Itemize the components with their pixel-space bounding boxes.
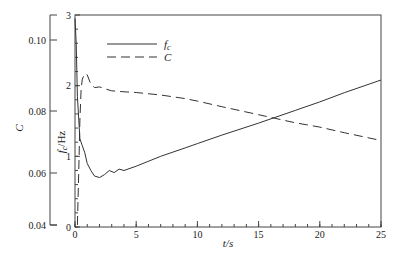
right-axis-title-unit: /Hz (55, 131, 67, 147)
fc-tick-label: 1 (66, 151, 71, 162)
plot-frame (75, 15, 381, 227)
left-tick-label: 0.08 (29, 106, 47, 117)
x-tick-label: 20 (315, 229, 325, 240)
fc-tick-label: 3 (66, 10, 71, 21)
x-tick-label: 0 (73, 229, 78, 240)
chart: 0.040.060.080.10 C fc/Hz 0123 0510152025… (0, 0, 394, 262)
x-tick-label: 5 (134, 229, 139, 240)
left-tick-label: 0.10 (29, 35, 47, 46)
legend: fc C (107, 38, 172, 63)
series-line-fc (75, 19, 381, 178)
left-tick-label: 0.06 (29, 168, 47, 179)
left-axis-title: C (13, 124, 25, 132)
x-tick-label: 10 (192, 229, 202, 240)
fc-tick-label: 0 (66, 222, 71, 233)
left-tick-label: 0.04 (29, 220, 47, 231)
x-tick-label: 15 (254, 229, 264, 240)
left-axis: 0.040.060.080.10 C (13, 15, 57, 231)
legend-fc-label: fc (164, 38, 171, 52)
x-tick-label: 25 (376, 229, 386, 240)
legend-c-label: C (164, 51, 172, 63)
x-axis-title: t/s (223, 237, 233, 249)
fc-tick-label: 2 (66, 80, 71, 91)
